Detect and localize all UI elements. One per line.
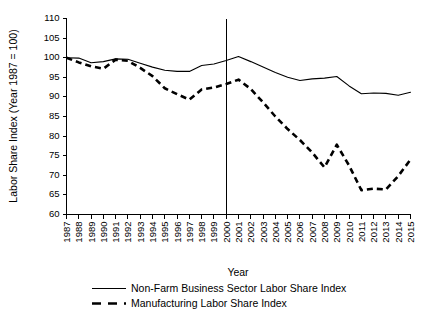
x-tick-label: 2006 <box>294 222 305 243</box>
y-tick-label: 110 <box>44 12 59 23</box>
x-axis: 1987198819891990199119921993199419951996… <box>61 215 416 243</box>
x-tick-label: 2010 <box>344 222 355 243</box>
y-axis-title: Labor Share Index (Year 1987 = 100) <box>7 29 19 202</box>
x-tick-label: 1996 <box>172 222 183 243</box>
x-tick-label: 2014 <box>393 222 404 243</box>
x-tick-label: 1988 <box>73 222 84 243</box>
x-tick-label: 2005 <box>282 222 293 243</box>
x-tick-label: 1993 <box>135 222 146 243</box>
y-tick-label: 80 <box>49 130 60 141</box>
x-tick-label: 1995 <box>159 222 170 243</box>
y-tick-label: 85 <box>49 110 60 121</box>
chart-legend: Non-Farm Business Sector Labor Share Ind… <box>92 282 347 309</box>
x-axis-title: Year <box>227 266 249 278</box>
y-tick-label: 65 <box>49 188 60 199</box>
x-tick-label: 2009 <box>331 222 342 243</box>
y-tick-label: 90 <box>49 90 60 101</box>
x-tick-label: 2012 <box>368 222 379 243</box>
x-tick-label: 1994 <box>147 222 158 243</box>
chart-figure: 6065707580859095100105110 19871988198919… <box>0 0 441 314</box>
y-tick-label: 95 <box>49 71 60 82</box>
x-tick-label: 1998 <box>196 222 207 243</box>
x-tick-label: 2004 <box>270 222 281 243</box>
x-tick-label: 1997 <box>184 222 195 243</box>
labor-share-index-line-chart: 6065707580859095100105110 19871988198919… <box>0 0 441 314</box>
y-axis: 6065707580859095100105110 <box>44 12 67 219</box>
x-tick-label: 2011 <box>356 222 367 242</box>
x-tick-label: 2001 <box>233 222 244 243</box>
y-tick-label: 100 <box>44 51 60 62</box>
x-tick-label: 1992 <box>122 222 133 243</box>
x-tick-label: 1999 <box>208 222 219 243</box>
y-tick-label: 70 <box>49 169 60 180</box>
legend-label-manufacturing: Manufacturing Labor Share Index <box>131 297 288 309</box>
x-tick-label: 2015 <box>405 222 416 243</box>
x-tick-label: 1991 <box>110 222 121 243</box>
legend-label-non-farm-business-sector: Non-Farm Business Sector Labor Share Ind… <box>131 282 347 294</box>
series-line-manufacturing <box>67 58 411 191</box>
x-tick-label: 2007 <box>307 222 318 243</box>
x-tick-label: 2008 <box>319 222 330 243</box>
axis-spine <box>67 19 411 215</box>
x-tick-label: 1989 <box>86 222 97 243</box>
plot-frame <box>67 19 411 215</box>
y-tick-label: 105 <box>44 32 60 43</box>
x-tick-label: 2003 <box>258 222 269 243</box>
x-tick-label: 1987 <box>61 222 72 243</box>
series-line-non-farm-business-sector <box>67 57 411 96</box>
x-tick-label: 2000 <box>221 222 232 243</box>
x-tick-label: 1990 <box>98 222 109 243</box>
y-tick-label: 60 <box>49 208 60 219</box>
x-tick-label: 2013 <box>380 222 391 243</box>
x-tick-label: 2002 <box>245 222 256 243</box>
y-tick-label: 75 <box>49 149 60 160</box>
